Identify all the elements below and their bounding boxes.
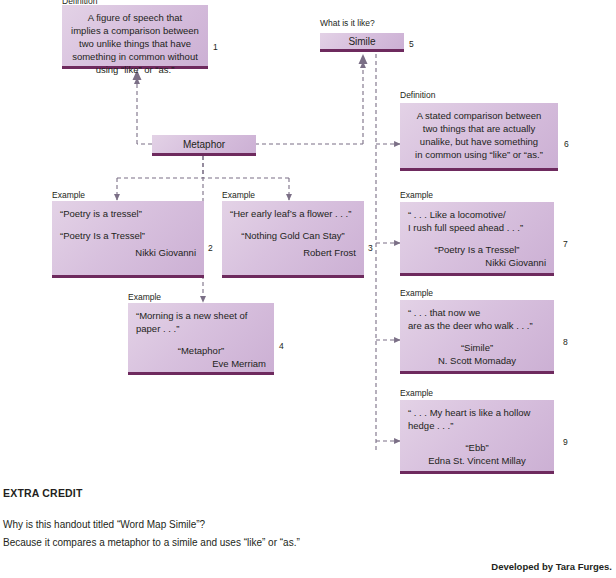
caption-simile: What is it like? (320, 18, 375, 28)
definition-metaphor-line-3: two unlike things that have (70, 37, 200, 50)
example-gold-source: “Nothing Gold Can Stay” (230, 229, 356, 242)
number-label-4: 4 (279, 341, 284, 351)
example-locomotive-quote-line-1: “ . . . Like a locomotive/ (408, 208, 546, 221)
number-label-2: 2 (208, 243, 213, 253)
number-label-1: 1 (213, 42, 218, 52)
example-ebb-quote-line-1: “ . . . My heart is like a hollow (408, 406, 546, 419)
number-label-7: 7 (563, 239, 568, 249)
spacer (408, 332, 546, 341)
example-ebb-source: “Ebb” (408, 441, 546, 454)
example-tressel-source: “Poetry Is a Tressel” (60, 229, 196, 242)
example-locomotive-quote-line-2: I rush full speed ahead . . .” (408, 221, 546, 234)
number-label-9: 9 (563, 437, 568, 447)
caption-example-morning: Example (128, 292, 161, 302)
caption-example-tressel: Example (52, 190, 85, 200)
extra-credit-question: Why is this handout titled “Word Map Sim… (3, 518, 205, 531)
definition-metaphor-line-1: A figure of speech that (70, 11, 200, 24)
definition-simile-line-2: two things that are actually (408, 122, 550, 135)
number-label-6: 6 (564, 139, 569, 149)
definition-simile-line-3: unalike, but have something (408, 135, 550, 148)
simile-title: Simile (348, 35, 375, 48)
example-ebb-quote-line-2: hedge . . .” (408, 419, 546, 432)
definition-simile-line-4: in common using “like” or “as.” (408, 148, 550, 161)
developer-credit: Developed by Tara Furges. (491, 561, 612, 572)
caption-example-gold: Example (222, 190, 255, 200)
caption-example-deer: Example (400, 288, 433, 298)
connector-lines: up into Definition box 1 --> (0, 0, 616, 578)
example-morning-quote-line-2: paper . . .” (136, 322, 266, 335)
example-deer-quote-line-2: are as the deer who walk . . .” (408, 319, 546, 332)
example-gold-quote: “Her early leaf’s a flower . . .” (230, 207, 356, 220)
node-definition-simile[interactable]: A stated comparison between two things t… (400, 103, 558, 171)
example-locomotive-author: Nikki Giovanni (408, 256, 546, 269)
caption-example-ebb: Example (400, 388, 433, 398)
node-definition-metaphor[interactable]: A figure of speech that implies a compar… (62, 5, 208, 69)
example-ebb-author: Edna St. Vincent Millay (408, 454, 546, 467)
definition-simile-line-1: A stated comparison between (408, 109, 550, 122)
number-label-3: 3 (368, 243, 373, 253)
node-example-locomotive[interactable]: “ . . . Like a locomotive/ I rush full s… (400, 202, 554, 276)
node-example-tressel[interactable]: “Poetry is a tressel” “Poetry Is a Tress… (52, 201, 204, 278)
spacer (408, 234, 546, 243)
spacer (60, 220, 196, 229)
example-tressel-author: Nikki Giovanni (60, 246, 196, 259)
word-map-handout: up into Definition box 1 --> (0, 0, 616, 578)
caption-definition-simile: Definition (400, 90, 435, 100)
extra-credit-heading: EXTRA CREDIT (3, 487, 83, 499)
example-deer-source: “Simile” (408, 341, 546, 354)
example-morning-author: Eve Merriam (136, 357, 266, 370)
example-gold-author: Robert Frost (230, 246, 356, 259)
example-deer-quote-line-1: “ . . . that now we (408, 306, 546, 319)
node-example-gold[interactable]: “Her early leaf’s a flower . . .” “Nothi… (222, 201, 364, 278)
node-example-ebb[interactable]: “ . . . My heart is like a hollow hedge … (400, 400, 554, 474)
example-tressel-quote: “Poetry is a tressel” (60, 207, 196, 220)
definition-metaphor-line-4: something in common without (70, 50, 200, 63)
node-simile[interactable]: Simile (320, 33, 404, 52)
definition-metaphor-line-2: implies a comparison between (70, 24, 200, 37)
caption-example-locomotive: Example (400, 190, 433, 200)
metaphor-title: Metaphor (183, 138, 225, 151)
example-deer-author: N. Scott Momaday (408, 354, 546, 367)
spacer (408, 432, 546, 441)
node-metaphor[interactable]: Metaphor (152, 135, 256, 156)
spacer (136, 335, 266, 344)
number-label-8: 8 (563, 337, 568, 347)
node-example-deer[interactable]: “ . . . that now we are as the deer who … (400, 300, 554, 374)
number-label-5: 5 (409, 39, 414, 49)
node-example-morning[interactable]: “Morning is a new sheet of paper . . .” … (128, 303, 274, 375)
example-morning-quote-line-1: “Morning is a new sheet of (136, 309, 266, 322)
extra-credit-answer: Because it compares a metaphor to a simi… (3, 536, 300, 549)
example-locomotive-source: “Poetry Is a Tressel” (408, 243, 546, 256)
example-morning-source: “Metaphor” (136, 344, 266, 357)
definition-metaphor-line-5: using “like” or “as.” (70, 63, 200, 76)
spacer (230, 220, 356, 229)
